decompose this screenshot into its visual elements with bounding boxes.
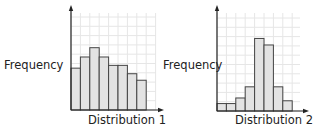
histogram-bar xyxy=(255,38,264,111)
histogram-bar xyxy=(226,104,235,111)
histogram-bar xyxy=(236,98,245,111)
x-axis-arrow-icon xyxy=(303,109,309,113)
histogram-bar xyxy=(264,45,273,111)
histogram-bar xyxy=(217,104,226,111)
histogram-bar xyxy=(245,87,254,111)
histogram-bar xyxy=(283,101,292,111)
histogram-bar xyxy=(273,87,282,111)
y-axis-arrow-icon xyxy=(215,5,219,11)
bars xyxy=(217,38,292,111)
histogram-distribution-2 xyxy=(0,0,325,132)
